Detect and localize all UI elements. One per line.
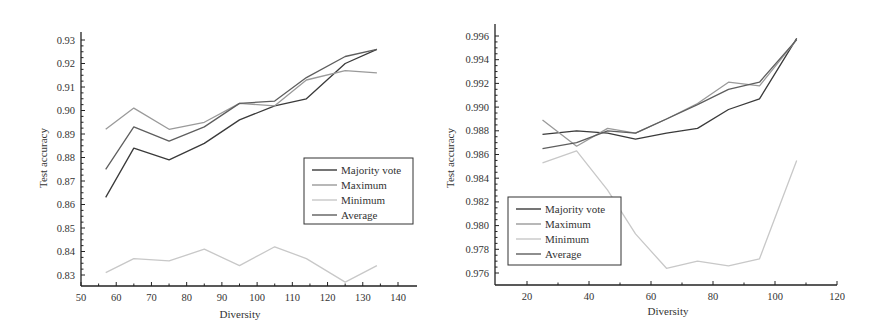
legend-label: Maximum — [545, 218, 591, 230]
legend-label: Average — [545, 248, 582, 260]
y-tick-label: 0.982 — [465, 196, 489, 207]
y-tick-label: 0.89 — [57, 129, 75, 140]
x-tick-label: 40 — [584, 291, 595, 302]
y-tick-label: 0.92 — [57, 58, 75, 69]
x-tick-label: 120 — [320, 292, 336, 303]
legend-label: Maximum — [341, 179, 387, 191]
y-tick-label: 0.91 — [57, 82, 75, 93]
legend-label: Majority vote — [545, 203, 605, 215]
x-tick-label: 140 — [390, 292, 406, 303]
chart-left: 50607080901001101201301400.830.840.850.8… — [37, 32, 417, 320]
chart-right: 204060801001200.9760.9780.9800.9820.9840… — [444, 24, 845, 317]
x-axis-title: Diversity — [648, 305, 689, 317]
y-tick-label: 0.984 — [465, 173, 489, 184]
x-tick-label: 80 — [708, 291, 719, 302]
y-tick-label: 0.980 — [465, 220, 489, 231]
legend: Majority voteMaximumMinimumAverage — [508, 197, 621, 265]
y-tick-label: 0.84 — [57, 246, 76, 257]
x-tick-label: 70 — [146, 292, 157, 303]
y-tick-label: 0.994 — [465, 54, 489, 65]
y-tick-label: 0.976 — [465, 268, 489, 279]
x-axis-title: Diversity — [220, 308, 261, 320]
legend: Majority voteMaximumMinimumAverage — [304, 158, 413, 224]
y-tick-label: 0.988 — [465, 125, 489, 136]
x-tick-label: 60 — [646, 291, 657, 302]
y-tick-label: 0.992 — [465, 78, 489, 89]
legend-label: Minimum — [545, 233, 589, 245]
x-tick-label: 50 — [76, 292, 87, 303]
y-tick-label: 0.87 — [57, 176, 75, 187]
y-tick-label: 0.86 — [57, 199, 75, 210]
series-line-average — [106, 49, 377, 169]
x-tick-label: 130 — [355, 292, 371, 303]
x-tick-label: 100 — [249, 292, 265, 303]
y-axis-title: Test accuracy — [37, 128, 49, 188]
y-axis-title: Test accuracy — [444, 128, 456, 188]
y-tick-label: 0.990 — [465, 102, 489, 113]
x-tick-label: 20 — [522, 291, 533, 302]
legend-label: Majority vote — [341, 164, 401, 176]
y-tick-label: 0.88 — [57, 152, 75, 163]
legend-label: Average — [341, 209, 378, 221]
series-line-majority-vote — [543, 38, 797, 139]
y-tick-label: 0.90 — [57, 105, 75, 116]
y-tick-label: 0.83 — [57, 270, 75, 281]
x-tick-label: 100 — [767, 291, 783, 302]
series-line-minimum — [106, 247, 377, 282]
y-tick-label: 0.986 — [465, 149, 489, 160]
x-tick-label: 60 — [111, 292, 122, 303]
x-tick-label: 80 — [181, 292, 192, 303]
y-tick-label: 0.85 — [57, 223, 75, 234]
x-tick-label: 90 — [217, 292, 228, 303]
x-tick-label: 110 — [285, 292, 300, 303]
x-tick-label: 120 — [829, 291, 845, 302]
series-line-maximum — [106, 71, 377, 130]
legend-label: Minimum — [341, 194, 385, 206]
y-tick-label: 0.93 — [57, 35, 75, 46]
series-line-maximum — [543, 40, 797, 147]
y-tick-label: 0.978 — [465, 244, 489, 255]
figure: 50607080901001101201301400.830.840.850.8… — [0, 0, 880, 330]
y-tick-label: 0.996 — [465, 31, 489, 42]
